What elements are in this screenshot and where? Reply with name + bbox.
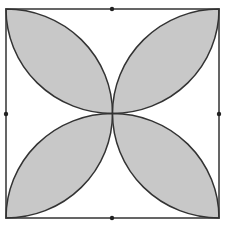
midpoint-dot-bottom [110,216,114,220]
midpoint-dot-right [217,112,221,116]
petals [6,9,219,218]
petal-top-left [6,9,113,114]
petal-bottom-right [113,114,220,219]
petal-bottom-left [6,114,113,219]
midpoint-dot-top [110,7,114,11]
midpoint-dot-left [4,112,8,116]
petal-diagram [0,0,233,231]
petal-top-right [113,9,220,114]
